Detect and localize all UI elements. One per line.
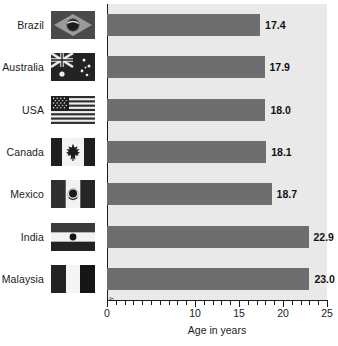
x-tick-minor [318, 300, 319, 305]
x-tick-minor [133, 300, 134, 305]
x-tick-major [327, 300, 328, 307]
x-axis-line [107, 300, 327, 301]
x-tick-minor [292, 300, 293, 305]
country-label-canada: Canada [0, 146, 44, 158]
bar-chart: Brazil 17.4Australia 17.9USA [0, 0, 338, 346]
x-tick-minor [257, 300, 258, 305]
x-tick-major [107, 300, 108, 307]
x-tick-label: 25 [321, 307, 333, 319]
x-tick-label: 0 [104, 307, 110, 319]
flag-usa-icon [51, 96, 95, 124]
country-label-australia: Australia [0, 61, 44, 73]
bar-value-india: 22.9 [314, 226, 334, 248]
flag-india-icon [51, 223, 95, 251]
bar-value-mexico: 18.7 [277, 183, 297, 205]
bar-value-australia: 17.9 [270, 56, 290, 78]
x-tick-minor [151, 300, 152, 305]
x-tick-minor [142, 300, 143, 305]
bar-usa [107, 99, 265, 121]
country-label-brazil: Brazil [0, 19, 44, 31]
x-tick-minor [125, 300, 126, 305]
x-tick-minor [116, 300, 117, 305]
x-tick-label: 20 [277, 307, 289, 319]
bar-australia [107, 56, 265, 78]
bar-value-malaysia: 23.0 [314, 268, 334, 290]
flag-brazil-icon [51, 11, 95, 39]
bar-mexico [107, 183, 272, 205]
x-tick-label: 15 [233, 307, 245, 319]
x-tick-major [283, 300, 284, 307]
x-tick-minor [309, 300, 310, 305]
x-axis-title: Age in years [107, 324, 327, 336]
bar-canada [107, 141, 266, 163]
x-tick-minor [186, 300, 187, 305]
x-tick-label: 10 [189, 307, 201, 319]
bar-value-usa: 18.0 [270, 99, 290, 121]
x-tick-minor [213, 300, 214, 305]
x-tick-major [195, 300, 196, 307]
flag-australia-icon [51, 53, 95, 81]
x-tick-minor [274, 300, 275, 305]
x-tick-minor [169, 300, 170, 305]
x-tick-minor [265, 300, 266, 305]
country-label-india: India [0, 231, 44, 243]
x-tick-minor [177, 300, 178, 305]
country-label-malaysia: Malaysia [0, 273, 44, 285]
country-label-usa: USA [0, 104, 44, 116]
flag-malaysia-icon [51, 265, 95, 293]
x-tick-minor [221, 300, 222, 305]
bar-brazil [107, 14, 260, 36]
x-tick-minor [230, 300, 231, 305]
x-tick-minor [301, 300, 302, 305]
country-label-mexico: Mexico [0, 188, 44, 200]
flag-canada-icon [51, 138, 95, 166]
bar-india [107, 226, 309, 248]
x-tick-major [239, 300, 240, 307]
bar-value-canada: 18.1 [271, 141, 291, 163]
axis-break-icon: ≈ [109, 295, 114, 304]
flag-mexico-icon [51, 180, 95, 208]
x-tick-minor [160, 300, 161, 305]
bar-malaysia [107, 268, 309, 290]
x-tick-minor [204, 300, 205, 305]
x-tick-minor [248, 300, 249, 305]
bar-value-brazil: 17.4 [265, 14, 285, 36]
